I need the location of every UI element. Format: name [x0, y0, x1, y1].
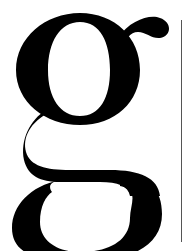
letter-g-glyph: [0, 0, 186, 251]
vertical-rule: [181, 20, 182, 242]
